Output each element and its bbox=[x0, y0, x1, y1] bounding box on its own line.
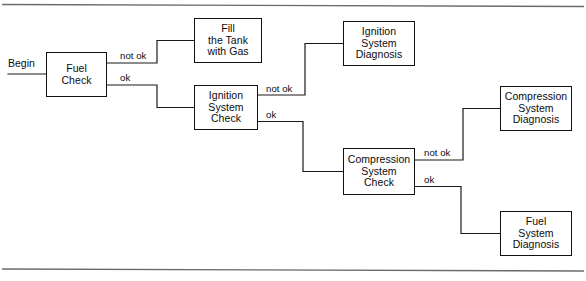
flowchart-canvas: Begin Fuel Check Fill the Tank with Gas … bbox=[0, 0, 586, 281]
flowchart-lines bbox=[0, 0, 586, 281]
node-fill-tank[interactable]: Fill the Tank with Gas bbox=[194, 18, 262, 63]
connector-fuel-check-ok bbox=[107, 85, 194, 108]
connector-compression-check-ok bbox=[415, 187, 500, 234]
node-compression-check[interactable]: Compression System Check bbox=[343, 148, 415, 195]
edge-label-ignition-check-not-ok: not ok bbox=[266, 84, 292, 94]
node-fuel-diagnosis-label: Fuel System Diagnosis bbox=[511, 216, 562, 251]
edge-label-compression-check-not-ok: not ok bbox=[424, 148, 450, 158]
edge-label-compression-check-ok: ok bbox=[424, 175, 434, 185]
node-compression-check-label: Compression System Check bbox=[346, 154, 412, 189]
top-divider-rule bbox=[2, 5, 584, 7]
node-fuel-diagnosis[interactable]: Fuel System Diagnosis bbox=[500, 211, 572, 256]
connector-ignition-check-ok bbox=[258, 122, 343, 172]
node-compression-diagnosis[interactable]: Compression System Diagnosis bbox=[500, 86, 572, 131]
bottom-divider-rule bbox=[2, 269, 584, 271]
edge-label-fuel-check-not-ok: not ok bbox=[120, 51, 146, 61]
node-ignition-diagnosis[interactable]: Ignition System Diagnosis bbox=[343, 21, 415, 66]
node-fuel-check-label: Fuel Check bbox=[59, 63, 93, 87]
node-ignition-check-label: Ignition System Check bbox=[206, 90, 245, 125]
node-compression-diagnosis-label: Compression System Diagnosis bbox=[503, 91, 569, 126]
node-ignition-diagnosis-label: Ignition System Diagnosis bbox=[354, 26, 405, 61]
edge-label-fuel-check-ok: ok bbox=[120, 73, 130, 83]
node-fuel-check[interactable]: Fuel Check bbox=[46, 52, 107, 97]
node-ignition-check[interactable]: Ignition System Check bbox=[194, 85, 258, 130]
edge-label-ignition-check-ok: ok bbox=[266, 110, 276, 120]
start-label: Begin bbox=[8, 58, 35, 69]
node-fill-tank-label: Fill the Tank with Gas bbox=[205, 23, 250, 58]
